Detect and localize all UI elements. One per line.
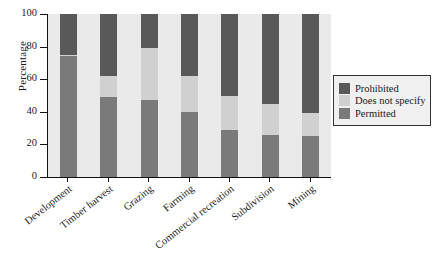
bar-mining bbox=[302, 14, 319, 177]
plot-area bbox=[47, 14, 331, 178]
bar-timber-harvest bbox=[100, 14, 117, 177]
segment-permitted bbox=[141, 100, 158, 177]
segment-does-not-specify bbox=[100, 76, 117, 97]
y-tick-label-60: 60 bbox=[27, 72, 38, 83]
y-tick-label-80: 80 bbox=[27, 40, 38, 51]
y-tick-label-100: 100 bbox=[21, 7, 37, 18]
segment-permitted bbox=[181, 112, 198, 177]
bar-development bbox=[60, 14, 77, 177]
segment-prohibited bbox=[221, 14, 238, 96]
segment-prohibited bbox=[141, 14, 158, 48]
bar-subdivision bbox=[262, 14, 279, 177]
segment-permitted bbox=[302, 136, 319, 177]
figure: Percentage 100806040200 DevelopmentTimbe… bbox=[0, 0, 435, 274]
legend-item-prohibited: Prohibited bbox=[339, 83, 426, 94]
legend-item-does-not-specify: Does not specify bbox=[339, 95, 426, 106]
legend-label: Does not specify bbox=[355, 95, 426, 106]
y-tick-label-20: 20 bbox=[27, 137, 38, 148]
legend-swatch-prohibited bbox=[339, 83, 350, 94]
segment-permitted bbox=[262, 135, 279, 177]
segment-does-not-specify bbox=[262, 104, 279, 135]
legend-swatch-permitted bbox=[339, 108, 350, 119]
legend-label: Prohibited bbox=[355, 83, 399, 94]
y-tick-label-0: 0 bbox=[32, 170, 37, 181]
y-tick-40: 40 bbox=[40, 112, 47, 113]
segment-prohibited bbox=[302, 14, 319, 113]
bar-commercial-recreation bbox=[221, 14, 238, 177]
legend-item-permitted: Permitted bbox=[339, 108, 426, 119]
legend: ProhibitedDoes not specifyPermitted bbox=[333, 75, 431, 126]
segment-permitted bbox=[60, 56, 77, 177]
segment-prohibited bbox=[100, 14, 117, 76]
segment-prohibited bbox=[262, 14, 279, 104]
legend-swatch-does-not-specify bbox=[339, 95, 350, 106]
segment-does-not-specify bbox=[302, 113, 319, 136]
segment-prohibited bbox=[60, 14, 77, 55]
y-tick-100: 100 bbox=[40, 14, 47, 15]
segment-permitted bbox=[221, 130, 238, 177]
segment-prohibited bbox=[181, 14, 198, 76]
segment-permitted bbox=[100, 97, 117, 177]
segment-does-not-specify bbox=[181, 76, 198, 112]
legend-label: Permitted bbox=[355, 108, 396, 119]
bar-grazing bbox=[141, 14, 158, 177]
bar-farming bbox=[181, 14, 198, 177]
bar-group bbox=[48, 14, 331, 177]
y-tick-80: 80 bbox=[40, 47, 47, 48]
y-tick-20: 20 bbox=[40, 144, 47, 145]
y-tick-60: 60 bbox=[40, 79, 47, 80]
y-tick-0: 0 bbox=[40, 177, 47, 178]
segment-does-not-specify bbox=[221, 96, 238, 130]
y-tick-label-40: 40 bbox=[27, 105, 38, 116]
segment-does-not-specify bbox=[141, 48, 158, 100]
